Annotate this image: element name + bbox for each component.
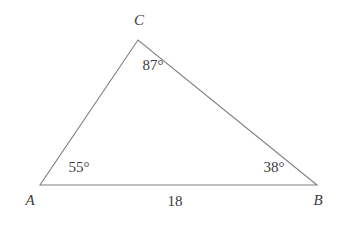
geometry-figure: A B C 55° 38° 87° 18: [0, 0, 347, 227]
vertex-label-b: B: [313, 193, 322, 208]
vertex-label-c: C: [134, 13, 144, 28]
side-length-label-ab: 18: [168, 194, 183, 209]
vertex-label-a: A: [25, 193, 34, 208]
angle-label-at-c: 87°: [143, 58, 164, 73]
angle-label-at-a: 55°: [69, 160, 90, 175]
angle-label-at-b: 38°: [264, 160, 285, 175]
